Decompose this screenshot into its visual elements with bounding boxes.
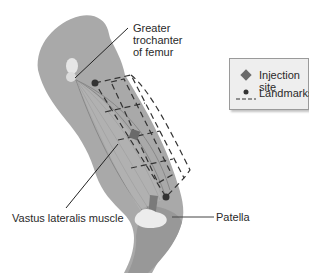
trochanter-bone-lower <box>66 72 76 82</box>
diamond-icon <box>238 69 256 83</box>
label-line-3: of femur <box>133 46 183 58</box>
landmark-dot-bottom <box>163 194 170 201</box>
label-line-1: Greater <box>133 22 183 34</box>
label-line-2: trochanter <box>133 34 183 46</box>
trochanter-bone <box>66 58 78 74</box>
label-patella: Patella <box>216 211 250 223</box>
landmark-dot-top <box>92 80 99 87</box>
legend-label-landmarks: Landmarks <box>259 87 309 99</box>
legend: Injection site Landmarks <box>229 58 309 110</box>
label-vastus-lateralis: Vastus lateralis muscle <box>12 212 124 224</box>
label-greater-trochanter: Greater trochanter of femur <box>133 22 183 58</box>
dot-dashed-line-icon <box>234 87 258 103</box>
